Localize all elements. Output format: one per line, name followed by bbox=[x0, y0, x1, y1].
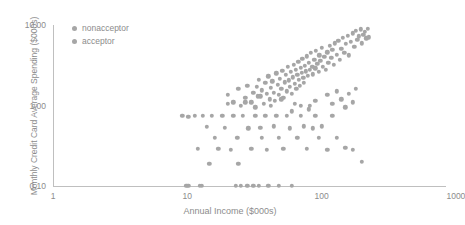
data-point bbox=[360, 41, 364, 45]
data-point bbox=[360, 160, 364, 164]
data-point bbox=[245, 184, 249, 188]
data-point bbox=[231, 113, 235, 117]
data-point bbox=[347, 92, 351, 96]
data-point bbox=[213, 135, 217, 139]
data-point bbox=[249, 100, 253, 104]
data-point bbox=[313, 98, 317, 102]
data-point bbox=[330, 102, 334, 106]
data-point bbox=[246, 126, 250, 130]
data-point bbox=[309, 51, 313, 55]
data-point bbox=[283, 73, 287, 77]
data-point bbox=[343, 105, 347, 109]
data-point bbox=[251, 184, 255, 188]
data-point bbox=[316, 70, 320, 74]
data-point bbox=[313, 113, 317, 117]
data-point bbox=[281, 95, 285, 99]
data-point bbox=[335, 89, 339, 93]
data-point bbox=[290, 109, 294, 113]
data-point bbox=[236, 87, 240, 91]
data-point bbox=[249, 147, 253, 151]
data-point bbox=[325, 50, 329, 54]
data-point bbox=[277, 135, 281, 139]
data-point bbox=[343, 145, 347, 149]
data-point bbox=[350, 148, 354, 152]
data-point bbox=[290, 184, 294, 188]
data-point bbox=[292, 102, 296, 106]
data-point bbox=[223, 125, 227, 129]
data-point bbox=[325, 93, 329, 97]
data-point bbox=[274, 71, 278, 75]
data-point bbox=[317, 53, 321, 57]
data-point bbox=[293, 67, 297, 71]
data-point bbox=[354, 87, 358, 91]
data-point bbox=[311, 126, 315, 130]
data-point bbox=[302, 124, 306, 128]
data-point bbox=[236, 161, 240, 165]
data-point bbox=[263, 81, 267, 85]
data-point bbox=[239, 184, 243, 188]
data-point bbox=[305, 147, 309, 151]
data-point bbox=[289, 70, 293, 74]
data-point bbox=[241, 113, 245, 117]
data-point bbox=[341, 36, 345, 40]
data-point bbox=[260, 88, 264, 92]
data-point bbox=[288, 126, 292, 130]
data-point bbox=[311, 72, 315, 76]
data-point bbox=[269, 103, 273, 107]
data-point bbox=[220, 113, 224, 117]
data-point bbox=[347, 53, 351, 57]
data-point bbox=[329, 56, 333, 60]
data-point bbox=[302, 81, 306, 85]
data-point bbox=[291, 75, 295, 79]
data-point bbox=[295, 135, 299, 139]
data-point bbox=[274, 113, 278, 117]
data-point bbox=[322, 55, 326, 59]
data-point bbox=[196, 147, 200, 151]
data-point bbox=[231, 100, 235, 104]
data-point bbox=[253, 105, 257, 109]
data-point bbox=[251, 90, 255, 94]
data-point bbox=[299, 103, 303, 107]
data-point bbox=[180, 113, 184, 117]
data-point bbox=[243, 95, 247, 99]
data-point bbox=[298, 84, 302, 88]
data-point bbox=[306, 73, 310, 77]
data-point bbox=[200, 113, 204, 117]
data-point bbox=[352, 44, 356, 48]
data-point bbox=[326, 61, 330, 65]
data-point bbox=[267, 97, 271, 101]
data-point bbox=[256, 184, 260, 188]
data-point bbox=[272, 124, 276, 128]
data-point bbox=[255, 85, 259, 89]
data-point bbox=[287, 78, 291, 82]
data-point bbox=[266, 184, 270, 188]
data-point bbox=[263, 113, 267, 117]
data-point bbox=[186, 184, 190, 188]
data-point bbox=[349, 40, 353, 44]
data-point bbox=[199, 184, 203, 188]
data-point bbox=[253, 113, 257, 117]
data-point bbox=[365, 26, 369, 30]
data-point bbox=[193, 114, 197, 118]
data-point bbox=[258, 94, 262, 98]
data-point bbox=[239, 103, 243, 107]
data-point bbox=[228, 148, 232, 152]
data-point bbox=[226, 102, 230, 106]
data-point bbox=[330, 113, 334, 117]
data-point bbox=[339, 97, 343, 101]
data-point bbox=[335, 135, 339, 139]
data-point bbox=[258, 125, 262, 129]
data-point bbox=[300, 57, 304, 61]
data-point bbox=[264, 148, 268, 152]
data-point bbox=[367, 35, 371, 39]
data-point bbox=[288, 85, 292, 89]
data-point bbox=[207, 161, 211, 165]
data-point bbox=[305, 54, 309, 58]
data-point bbox=[299, 113, 303, 117]
data-point bbox=[345, 33, 349, 37]
data-point bbox=[325, 148, 329, 152]
data-point bbox=[306, 107, 310, 111]
data-point bbox=[235, 135, 239, 139]
